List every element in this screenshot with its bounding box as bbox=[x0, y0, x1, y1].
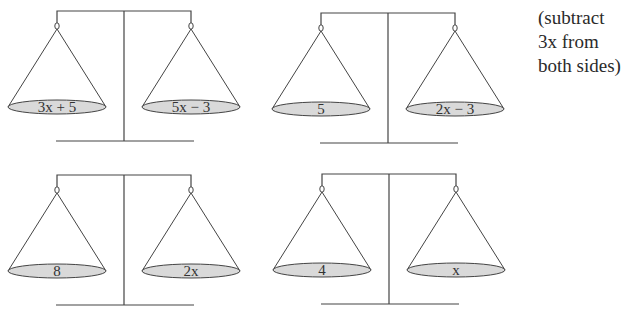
scale-2: 5 2x − 3 bbox=[272, 13, 504, 143]
scale-3: 8 2x bbox=[8, 175, 240, 305]
scale-1: 3x + 5 5x − 3 bbox=[8, 11, 240, 141]
scale-1-right-label: 5x − 3 bbox=[172, 99, 210, 115]
scale-3-right-label: 2x bbox=[184, 263, 200, 279]
scale-1-left-label: 3x + 5 bbox=[38, 99, 76, 115]
scale-4-right-label: x bbox=[452, 262, 460, 278]
annotation-line-1: (subtract bbox=[538, 6, 621, 30]
scale-2-left-label: 5 bbox=[317, 101, 325, 117]
annotation-line-2: 3x from bbox=[538, 30, 621, 54]
scale-3-left-label: 8 bbox=[53, 263, 61, 279]
step-annotation: (subtract 3x from both sides) bbox=[538, 6, 621, 78]
scale-4: 4 x bbox=[273, 174, 505, 304]
annotation-line-3: both sides) bbox=[538, 54, 621, 78]
scale-4-left-label: 4 bbox=[318, 262, 326, 278]
scale-2-right-label: 2x − 3 bbox=[436, 101, 474, 117]
